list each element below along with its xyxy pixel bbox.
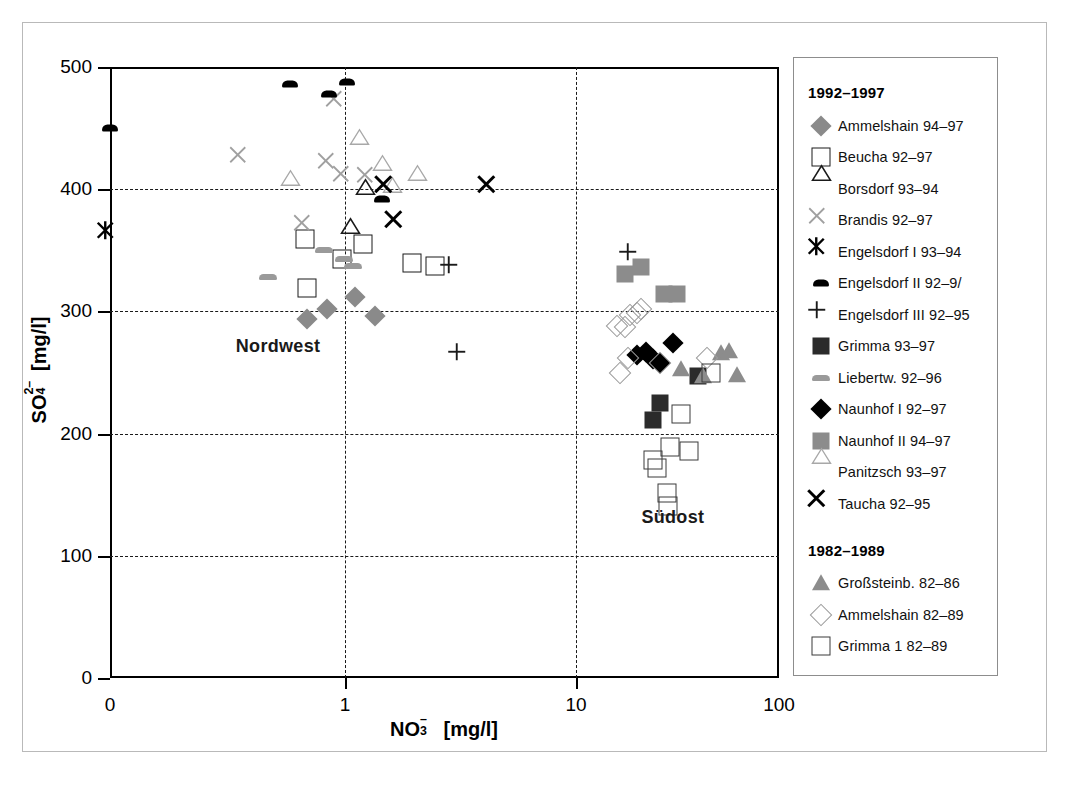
- data-point: [302, 222, 312, 232]
- legend-item[interactable]: Grimma 93–97: [794, 331, 997, 363]
- legend-item-label: Naunhof II 94–97: [838, 433, 951, 449]
- y-axis-tick: [98, 67, 110, 69]
- legend-item[interactable]: Taucha 92–95: [794, 488, 997, 520]
- x-axis-tick-label: 100: [763, 694, 795, 716]
- y-axis-unit: [mg/l]: [28, 317, 50, 371]
- legend-item[interactable]: Grimma 1 82–89: [794, 631, 997, 663]
- legend-symbol-diamond-black-icon: [808, 396, 838, 422]
- data-point: [315, 247, 333, 253]
- data-point: [449, 265, 459, 275]
- legend-symbol-triangle-open-light-icon: [808, 459, 838, 485]
- x-axis-title: NO–3 [mg/l]: [390, 716, 498, 741]
- marker-plus-black: [816, 310, 826, 320]
- data-point: [393, 219, 404, 230]
- marker-diamond-black: [810, 399, 831, 420]
- legend-item-label: Grimma 93–97: [838, 338, 935, 354]
- data-point: [259, 274, 277, 280]
- marker-triangle-open-light: [812, 464, 830, 479]
- data-point: [340, 173, 350, 183]
- data-point: [383, 193, 401, 208]
- x-axis-title-charge: –3: [420, 716, 432, 736]
- y-axis-tick: [98, 189, 110, 191]
- data-point: [344, 263, 362, 269]
- legend-item[interactable]: Engelsdorf I 93–94: [794, 236, 997, 268]
- x-axis-tick: [345, 678, 347, 689]
- marker-diamond-gray: [810, 115, 831, 136]
- x-axis-tick-label: 1: [340, 694, 351, 716]
- legend-symbol-diamond-gray-icon: [808, 113, 838, 139]
- data-point: [335, 256, 353, 262]
- region-label-nordwest: Nordwest: [236, 335, 320, 356]
- legend-item-label: Liebertw. 92–96: [838, 370, 942, 386]
- marker-bar-gray: [812, 375, 830, 381]
- legend-symbol-x-black-icon: [808, 491, 838, 517]
- y-axis-tick: [98, 311, 110, 313]
- legend-item-label: Großsteinb. 82–86: [838, 575, 960, 591]
- legend-symbol-triangle-gray-icon: [808, 570, 838, 596]
- y-axis-tick-label: 400: [60, 178, 92, 200]
- legend-item[interactable]: Panitzsch 93–97: [794, 457, 997, 489]
- y-axis-title-charge: 2–4: [26, 382, 46, 394]
- data-point: [334, 99, 344, 109]
- legend-symbol-x-gray-icon: [808, 207, 838, 233]
- legend-item[interactable]: Ammelshain 94–97: [794, 110, 997, 142]
- data-point: [728, 366, 746, 382]
- y-gridline: [110, 434, 779, 435]
- y-axis-tick-label: 500: [60, 56, 92, 78]
- legend-item-label: Borsdorf 93–94: [838, 181, 939, 197]
- data-point: [281, 186, 299, 201]
- y-gridline: [110, 311, 779, 312]
- data-point: [672, 405, 691, 424]
- data-point: [238, 155, 248, 165]
- marker-bar-black: [813, 280, 829, 287]
- legend-symbol-bar-black-icon: [808, 270, 838, 296]
- legend-item[interactable]: Großsteinb. 82–86: [794, 568, 997, 600]
- x-axis-tick: [576, 678, 578, 689]
- legend-item-label: Taucha 92–95: [838, 496, 930, 512]
- legend-panel: 1992–1997 Ammelshain 94–97Beucha 92–97Bo…: [793, 57, 998, 676]
- legend-symbol-square-open-lt-icon: [808, 633, 838, 659]
- data-point: [652, 395, 669, 412]
- y-axis-tick-label: 200: [60, 423, 92, 445]
- y-axis-tick-label: 100: [60, 545, 92, 567]
- data-point: [633, 259, 650, 276]
- legend-item[interactable]: Liebertw. 92–96: [794, 362, 997, 394]
- legend-item-label: Engelsdorf I 93–94: [838, 244, 962, 260]
- legend-item[interactable]: Ammelshain 82–89: [794, 599, 997, 631]
- legend-item[interactable]: Engelsdorf III 92–95: [794, 299, 997, 331]
- y-axis-tick: [98, 434, 110, 436]
- legend-group-2: Großsteinb. 82–86Ammelshain 82–89Grimma …: [794, 568, 997, 663]
- data-point: [321, 90, 337, 97]
- marker-square-gray: [813, 432, 830, 449]
- data-point: [356, 194, 374, 209]
- legend-item[interactable]: Borsdorf 93–94: [794, 173, 997, 205]
- marker-triangle-open-dark: [812, 181, 830, 196]
- legend-item-label: Panitzsch 93–97: [838, 464, 947, 480]
- legend-item-label: Beucha 92–97: [838, 149, 933, 165]
- data-point: [282, 81, 298, 88]
- legend-item-label: Grimma 1 82–89: [838, 638, 947, 654]
- marker-square-dark: [813, 338, 830, 355]
- legend-symbol-bar-gray-icon: [808, 365, 838, 391]
- marker-x-gray: [816, 216, 826, 226]
- x-gridline: [345, 67, 346, 678]
- y-axis-title-text: SO: [28, 395, 50, 424]
- legend-item[interactable]: Naunhof I 92–97: [794, 394, 997, 426]
- region-label-suedost: Südost: [641, 506, 704, 527]
- y-gridline: [110, 189, 779, 190]
- legend-item[interactable]: Brandis 92–97: [794, 205, 997, 237]
- y-axis-tick-label: 300: [60, 300, 92, 322]
- data-point: [402, 253, 421, 272]
- data-point: [679, 441, 698, 460]
- legend-group-1: Ammelshain 94–97Beucha 92–97Borsdorf 93–…: [794, 110, 997, 520]
- legend-group-2-title: 1982–1989: [794, 542, 997, 559]
- legend-item-label: Ammelshain 82–89: [838, 607, 964, 623]
- data-point: [339, 78, 355, 85]
- data-point: [647, 458, 666, 477]
- data-point: [645, 412, 662, 429]
- data-point: [660, 438, 679, 457]
- data-point: [295, 230, 314, 249]
- legend-item-label: Ammelshain 94–97: [838, 118, 964, 134]
- legend-item[interactable]: Engelsdorf II 92–9/: [794, 268, 997, 300]
- data-point: [384, 184, 395, 195]
